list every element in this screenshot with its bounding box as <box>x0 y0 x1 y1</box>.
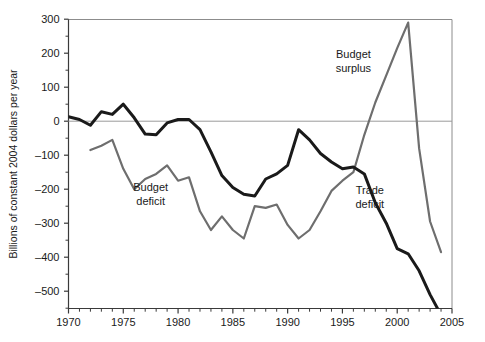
annotation-line-1: Trade <box>356 184 384 196</box>
x-axis-ticks <box>69 309 453 314</box>
y-axis-ticks <box>64 19 69 308</box>
data-line <box>90 23 441 253</box>
chart-container: 3002001000–100–200–300–400–500 197019751… <box>0 0 485 342</box>
trade-deficit-label: Tradedeficit <box>355 184 384 210</box>
x-axis-tick-labels: 19701975198019851990199520002005 <box>56 316 464 328</box>
y-tick-label: 200 <box>41 47 59 59</box>
y-tick-label: 300 <box>41 13 59 25</box>
x-tick-label: 1975 <box>111 316 135 328</box>
x-tick-label: 1990 <box>275 316 299 328</box>
y-axis-title: Billions of constant 2004 dollars per ye… <box>7 69 19 259</box>
y-tick-label: 100 <box>41 81 59 93</box>
plot-frame <box>68 20 452 309</box>
x-tick-label: 2005 <box>440 316 464 328</box>
budget-deficit-label: Budgetdeficit <box>133 181 168 207</box>
y-tick-label: –200 <box>35 183 59 195</box>
annotation-layer: BudgetdeficitBudgetsurplusTradedeficit <box>133 48 384 210</box>
annotation-line-2: deficit <box>136 195 165 207</box>
annotation-line-2: surplus <box>336 62 372 74</box>
y-tick-label: 0 <box>53 115 59 127</box>
y-axis-title-group: Billions of constant 2004 dollars per ye… <box>7 69 19 259</box>
y-tick-label: –400 <box>35 251 59 263</box>
x-tick-label: 1980 <box>166 316 190 328</box>
annotation-line-2: deficit <box>355 198 384 210</box>
annotation-line-1: Budget <box>336 48 371 60</box>
y-axis-tick-labels: 3002001000–100–200–300–400–500 <box>35 13 59 297</box>
chart-svg: 3002001000–100–200–300–400–500 197019751… <box>0 0 485 342</box>
data-series-layer <box>69 23 442 315</box>
x-tick-label: 1985 <box>221 316 245 328</box>
y-tick-label: –300 <box>35 217 59 229</box>
y-tick-label: –500 <box>35 285 59 297</box>
y-tick-label: –100 <box>35 149 59 161</box>
x-tick-label: 1995 <box>330 316 354 328</box>
budget-surplus-label: Budgetsurplus <box>336 48 372 74</box>
annotation-line-1: Budget <box>133 181 168 193</box>
x-tick-label: 2000 <box>385 316 409 328</box>
x-tick-label: 1970 <box>56 316 80 328</box>
